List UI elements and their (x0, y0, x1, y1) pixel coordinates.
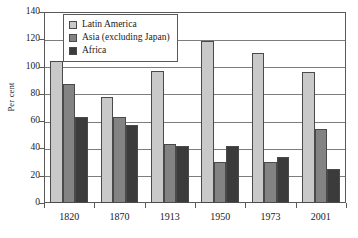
bar (315, 129, 328, 203)
bar (226, 146, 239, 203)
legend-swatch-icon (69, 47, 77, 55)
bar (151, 71, 164, 203)
y-tick-label: 60 (10, 116, 40, 126)
bar (126, 125, 139, 203)
y-tick-label: 0 (10, 198, 40, 208)
legend-item[interactable]: Africa (69, 44, 170, 57)
x-tick-mark (145, 203, 146, 208)
x-tick-label: 1820 (43, 211, 95, 222)
x-tick-mark (94, 203, 95, 208)
bar-group (252, 12, 290, 203)
x-tick-mark (296, 203, 297, 208)
y-tick-label: 100 (10, 62, 40, 72)
legend-item[interactable]: Asia (excluding Japan) (69, 31, 170, 44)
x-tick-mark (44, 203, 45, 208)
bar (252, 53, 265, 203)
bar (327, 169, 340, 203)
x-tick-label: 2001 (295, 211, 347, 222)
bar (176, 146, 189, 203)
x-tick-mark (346, 203, 347, 208)
bar (302, 72, 315, 203)
y-tick-label: 120 (10, 34, 40, 44)
bar-group (201, 12, 239, 203)
bar (101, 97, 114, 203)
x-tick-mark (245, 203, 246, 208)
bar (164, 144, 177, 203)
x-tick-label: 1913 (144, 211, 196, 222)
bar-chart: Per cent 020406080100120140 182018701913… (0, 0, 358, 238)
legend-item-label: Asia (excluding Japan) (82, 33, 170, 43)
bar (214, 162, 227, 203)
bar (264, 162, 277, 203)
x-tick-label: 1950 (194, 211, 246, 222)
y-tick-label: 40 (10, 143, 40, 153)
legend-item-label: Africa (82, 46, 106, 56)
bar (201, 41, 214, 203)
legend-swatch-icon (69, 34, 77, 42)
x-tick-mark (195, 203, 196, 208)
bar (50, 61, 63, 203)
y-tick-label: 20 (10, 171, 40, 181)
x-tick-label: 1870 (94, 211, 146, 222)
bar-group (302, 12, 340, 203)
bar (63, 84, 76, 203)
bar (113, 117, 126, 203)
x-tick-label: 1973 (245, 211, 297, 222)
bar (277, 157, 290, 203)
legend-item[interactable]: Latin America (69, 18, 170, 31)
y-tick-label: 140 (10, 7, 40, 17)
y-tick-label: 80 (10, 89, 40, 99)
legend-swatch-icon (69, 21, 77, 29)
legend-item-label: Latin America (82, 20, 137, 30)
legend: Latin AmericaAsia (excluding Japan)Afric… (63, 14, 178, 62)
bar (75, 117, 88, 203)
